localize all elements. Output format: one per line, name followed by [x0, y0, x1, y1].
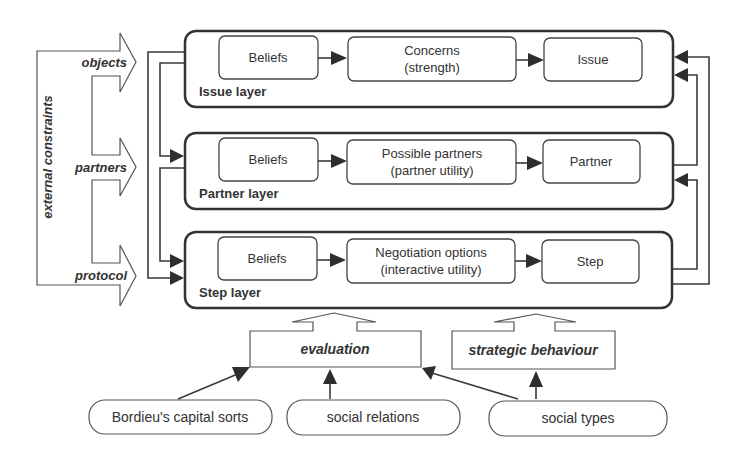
- arrow-head-icon: [170, 271, 184, 285]
- step-options-label: Negotiation options: [375, 245, 487, 260]
- issue-concerns-label: Concerns: [404, 43, 460, 58]
- protocol-label: protocol: [74, 268, 127, 283]
- connector-issue-to-partner-left: [160, 63, 185, 156]
- issue-beliefs-label: Beliefs: [248, 50, 288, 65]
- types-to-evaluation-line: [432, 373, 518, 399]
- source-types-label: social types: [541, 410, 614, 426]
- source-bordieu-label: Bordieu's capital sorts: [112, 409, 249, 425]
- source-arrows: [178, 366, 543, 399]
- objects-label: objects: [81, 55, 127, 70]
- sources: Bordieu's capital sorts social relations…: [89, 400, 667, 436]
- arrow-head-icon: [170, 254, 184, 268]
- partner-possible-sublabel: (partner utility): [390, 163, 473, 178]
- partner-layer-title: Partner layer: [199, 186, 279, 201]
- connector-partner-to-issue-right: [672, 75, 697, 165]
- connector-step-to-partner-right: [672, 180, 697, 269]
- arrow-head-icon: [674, 68, 688, 82]
- issue-layer-title: Issue layer: [199, 84, 266, 99]
- arrow-head-icon: [674, 50, 688, 64]
- partner-output-label: Partner: [570, 154, 613, 169]
- external-constraints-block: external constraints objects partners pr…: [37, 33, 136, 306]
- step-output-label: Step: [577, 254, 604, 269]
- connector-step-to-issue-right: [672, 57, 709, 284]
- issue-layer: Beliefs Concerns (strength) Issue Issue …: [185, 31, 673, 107]
- evaluation-label: evaluation: [300, 341, 369, 357]
- arrow-head-icon: [323, 369, 337, 384]
- bordieu-to-evaluation-line: [178, 373, 240, 399]
- connector-partner-to-step-left: [160, 168, 185, 261]
- evaluation-block: evaluation: [250, 313, 421, 367]
- evaluation-outline: [250, 313, 421, 367]
- issue-concerns-sublabel: (strength): [404, 60, 460, 75]
- connector-issue-to-step-left: [148, 52, 185, 278]
- arrow-head-icon: [170, 149, 184, 163]
- arrow-head-icon: [529, 371, 543, 387]
- right-connectors: [672, 50, 709, 284]
- step-layer-title: Step layer: [199, 285, 261, 300]
- arrow-head-icon: [674, 173, 688, 187]
- partners-label: partners: [74, 160, 127, 175]
- partner-possible-label: Possible partners: [382, 146, 483, 161]
- step-options-sublabel: (interactive utility): [380, 262, 481, 277]
- source-relations-label: social relations: [327, 409, 420, 425]
- strategic-behaviour-label: strategic behaviour: [468, 342, 599, 358]
- partner-layer: Beliefs Possible partners (partner utili…: [185, 133, 673, 209]
- partner-beliefs-label: Beliefs: [248, 152, 288, 167]
- left-connectors: [148, 52, 185, 285]
- negotiation-layer-diagram: external constraints objects partners pr…: [0, 0, 739, 458]
- issue-output-label: Issue: [577, 52, 608, 67]
- step-beliefs-label: Beliefs: [247, 251, 287, 266]
- external-constraints-label: external constraints: [40, 95, 55, 219]
- step-layer: Beliefs Negotiation options (interactive…: [185, 232, 672, 308]
- strategic-behaviour-block: strategic behaviour: [452, 314, 615, 369]
